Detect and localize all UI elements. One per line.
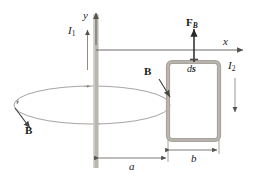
current-i2-subscript: 2 <box>232 64 236 73</box>
force-subscript: B <box>193 21 198 30</box>
force-label: FB <box>186 17 198 30</box>
current-i1-label: I1 <box>68 25 75 38</box>
field-label-left: B <box>25 125 32 136</box>
y-axis-label: y <box>83 10 88 21</box>
current-i2-label: I2 <box>228 60 235 73</box>
current-i1-subscript: 1 <box>72 29 76 38</box>
ds-vector-part: s <box>192 63 196 74</box>
distance-a-label: a <box>129 161 135 172</box>
field-label-right: B <box>144 66 151 77</box>
dimension-a <box>99 140 168 162</box>
x-axis-label: x <box>223 36 228 47</box>
magnetic-field-ellipse <box>14 86 170 124</box>
physics-diagram: y I1 x FB B B ds I2 a b <box>0 0 256 178</box>
diagram-canvas <box>0 0 256 178</box>
ds-label: ds <box>187 64 196 74</box>
distance-b-label: b <box>191 153 197 164</box>
